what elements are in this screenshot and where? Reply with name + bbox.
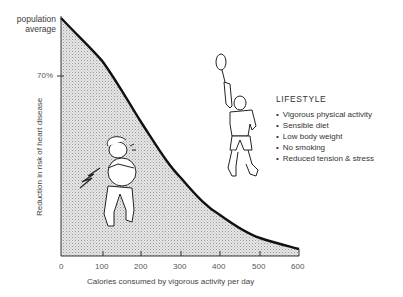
- x-tick-label-200: 200: [134, 262, 147, 271]
- lifestyle-legend: LIFESTYLE Vigorous physical activity Sen…: [276, 94, 374, 164]
- y-label-line2: average: [2, 24, 56, 34]
- legend-item: Vigorous physical activity: [276, 109, 374, 120]
- x-axis-title: Calories consumed by vigorous activity p…: [87, 277, 254, 286]
- legend-item: Low body weight: [276, 131, 374, 142]
- y-label-line1: population: [2, 14, 56, 24]
- legend-item: No smoking: [276, 142, 374, 153]
- y-axis-title: Reduction in risk of heart disease: [35, 98, 44, 216]
- y-label-population-average: population average: [2, 14, 56, 34]
- legend-item: Reduced tension & stress: [276, 153, 374, 164]
- x-tick-label-100: 100: [95, 262, 108, 271]
- x-tick-label-0: 0: [59, 262, 63, 271]
- tennis-player-illustration: [216, 54, 258, 176]
- legend-list: Vigorous physical activity Sensible diet…: [276, 109, 374, 164]
- y-tick-label-70: 70%: [37, 71, 53, 80]
- x-tick-label-400: 400: [212, 262, 225, 271]
- x-tick-label-300: 300: [173, 262, 186, 271]
- x-tick-label-500: 500: [252, 262, 265, 271]
- x-tick-label-600: 600: [291, 262, 304, 271]
- legend-title: LIFESTYLE: [276, 94, 374, 104]
- legend-item: Sensible diet: [276, 120, 374, 131]
